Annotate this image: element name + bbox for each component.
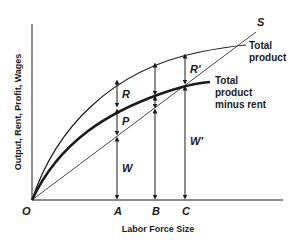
label-total-product-2: product (249, 52, 287, 63)
tick-A: A (113, 205, 122, 217)
production-diagram: R P W R' W' S Total product Total produc… (0, 0, 290, 244)
label-R-prime: R' (190, 63, 201, 75)
label-total-product-1: Total (249, 40, 272, 51)
tick-C: C (182, 205, 191, 217)
label-W-prime: W' (190, 135, 203, 147)
total-product-minus-rent-curve (32, 82, 210, 200)
label-tpmr-3: minus rent (215, 99, 267, 110)
tick-B: B (152, 205, 160, 217)
total-product-curve (32, 45, 246, 200)
supply-line (32, 32, 256, 200)
label-W: W (122, 162, 134, 174)
x-axis-title: Labor Force Size (122, 224, 195, 234)
label-tpmr-1: Total (215, 75, 238, 86)
label-S: S (257, 16, 265, 28)
origin-label: O (22, 205, 31, 217)
label-R: R (122, 88, 130, 100)
y-axis-title: Output, Rent, Profit, Wages (13, 54, 23, 171)
label-tpmr-2: product (215, 87, 253, 98)
label-P: P (122, 115, 130, 127)
